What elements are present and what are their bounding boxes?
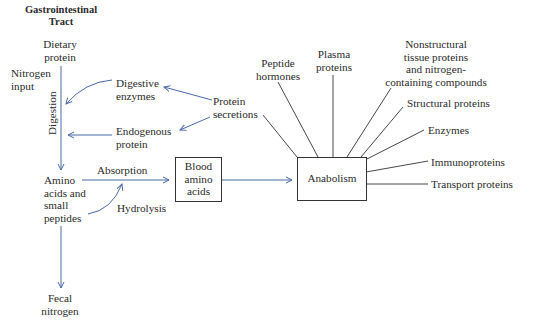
amino-acids-label: Amino acids and small peptides [44, 174, 86, 224]
fecal-nitrogen-label: Fecal nitrogen [35, 292, 85, 317]
immunoproteins-label: Immunoproteins [431, 156, 505, 169]
secretions-to-endogenous-arrow [180, 117, 210, 130]
spoke-enzymes [365, 130, 424, 160]
spoke-nonstructural [347, 88, 391, 157]
transport-proteins-label: Transport proteins [431, 178, 513, 191]
spoke-peptide-hormones [278, 82, 318, 157]
blood-amino-acids-label: Blood amino acids [176, 160, 221, 198]
spoke-structural [361, 107, 403, 157]
structural-proteins-label: Structural proteins [407, 97, 490, 110]
hydrolysis-label: Hydrolysis [117, 202, 166, 215]
peptide-hormones-label: Peptide hormones [248, 57, 308, 82]
blood-amino-acids-box: Blood amino acids [175, 157, 222, 202]
nonstructural-proteins-label: Nonstructural tissue proteins and nitrog… [370, 38, 502, 88]
absorption-label: Absorption [97, 164, 147, 177]
spoke-protein-secretions [263, 115, 297, 157]
anabolism-box: Anabolism [297, 157, 367, 201]
enzymes-label: Enzymes [428, 124, 469, 137]
dietary-protein-label: Dietary protein [30, 38, 90, 63]
enzymes-arrow [66, 80, 112, 104]
endogenous-protein-label: Endogenous protein [116, 125, 171, 150]
secretions-to-enzymes-arrow [164, 87, 212, 100]
anabolism-label: Anabolism [298, 172, 366, 185]
digestion-label: Digestion [46, 85, 59, 141]
plasma-proteins-label: Plasma proteins [306, 48, 362, 73]
digestive-enzymes-label: Digestive enzymes [116, 77, 159, 102]
protein-secretions-label: Protein secretions [213, 95, 258, 120]
spoke-immunoproteins [366, 161, 428, 172]
diagram-title: Gastrointestinal Tract [18, 4, 104, 28]
